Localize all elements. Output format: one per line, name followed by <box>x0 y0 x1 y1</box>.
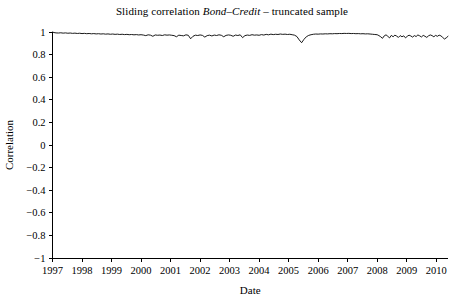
x-tick-label: 2008 <box>367 265 388 276</box>
data-series-line <box>53 32 449 43</box>
plot-area: −1−0.8−0.6−0.4−0.200.20.40.60.81 1997199… <box>0 0 464 305</box>
x-tick-label: 2006 <box>308 265 329 276</box>
x-tick-label: 2001 <box>160 265 181 276</box>
chart-figure: Sliding correlation Bond–Credit – trunca… <box>0 0 464 305</box>
y-tick-label: −1 <box>34 253 45 264</box>
y-tick-label: −0.6 <box>26 207 45 218</box>
y-axis-title: Correlation <box>3 119 15 170</box>
y-tick-label: 0.6 <box>32 72 45 83</box>
x-tick-label: 2000 <box>131 265 152 276</box>
y-tick-label: 1 <box>40 27 45 38</box>
x-axis-title: Date <box>240 284 261 296</box>
y-tick-label: −0.2 <box>26 162 45 173</box>
x-tick-label: 1999 <box>101 265 122 276</box>
y-axis-ticks: −1−0.8−0.6−0.4−0.200.20.40.60.81 <box>26 27 52 264</box>
x-tick-label: 2010 <box>426 265 447 276</box>
y-tick-label: 0 <box>40 140 45 151</box>
x-tick-label: 2007 <box>337 265 358 276</box>
y-tick-label: −0.8 <box>26 230 45 241</box>
x-axis-ticks: 1997199819992000200120022003200420052006… <box>42 258 447 276</box>
x-tick-label: 2002 <box>190 265 211 276</box>
x-tick-label: 1998 <box>72 265 93 276</box>
y-tick-label: 0.8 <box>32 49 45 60</box>
x-tick-label: 2003 <box>219 265 240 276</box>
x-tick-label: 2009 <box>396 265 417 276</box>
y-tick-label: 0.4 <box>32 94 46 105</box>
x-tick-label: 2004 <box>249 265 271 276</box>
y-tick-label: 0.2 <box>32 117 45 128</box>
x-tick-label: 2005 <box>278 265 299 276</box>
y-tick-label: −0.4 <box>26 185 46 196</box>
x-tick-label: 1997 <box>42 265 63 276</box>
